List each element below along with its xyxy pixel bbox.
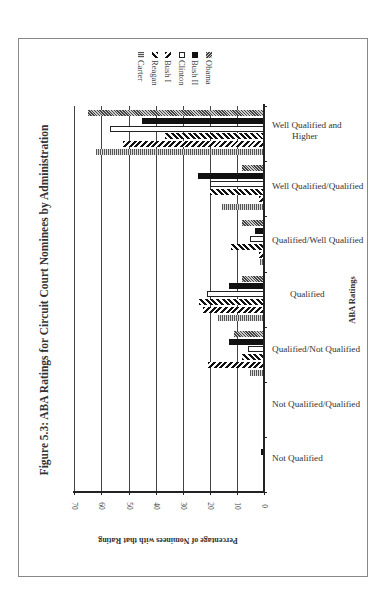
category-label: Not Qualified/Qualified [272,399,360,410]
legend-swatch-icon [165,52,171,58]
bar-bush-ii [229,283,264,289]
legend-item: Bush II [190,52,200,85]
category-label: Well Qualified andHigher [272,120,342,142]
plot-area [74,106,264,492]
legend-item: Reagan [150,52,160,86]
bar-reagan [203,307,264,313]
bar-clinton [248,346,264,352]
gridline [129,106,130,492]
category-label-line: Qualified [290,289,325,300]
value-tick-label: 50 [124,502,133,510]
category-label: Qualified/Well Qualified [272,235,363,246]
value-axis-label: Percentage of Nominees with that Rating [98,536,238,545]
legend-swatch-icon [206,52,212,58]
value-tick-label: 20 [205,502,214,510]
value-tick [129,491,130,495]
category-label-line: Qualified/Not Qualified [272,344,360,355]
gridline [156,106,157,492]
gridline [101,106,102,492]
legend-label: Carter [136,60,146,81]
gridline [183,106,184,492]
value-tick-label: 0 [260,504,269,508]
value-tick-label: 30 [178,502,187,510]
bar-obama [88,110,264,116]
bar-obama [242,220,264,226]
bar-clinton [207,291,264,297]
category-label-line: Not Qualified/Qualified [272,399,360,410]
category-axis-line [263,104,265,493]
legend-label: Reagan [150,60,160,86]
legend-item: Bush I [163,52,173,82]
category-label-line: Qualified/Well Qualified [272,235,363,246]
category-label-line: Higher [272,131,342,142]
category-tick [264,382,267,383]
bar-bush-i [199,299,264,305]
value-tick-label: 40 [151,502,160,510]
bar-carter [218,315,264,321]
bar-obama [242,276,264,282]
bar-bush-i [242,354,264,360]
bar-obama [234,331,264,337]
bar-bush-ii [198,173,264,179]
bar-clinton [250,236,264,242]
bar-reagan [123,141,264,147]
bar-clinton [110,126,264,132]
category-tick [264,106,267,107]
category-tick [264,437,267,438]
category-label: Well Qualified/Qualified [272,181,363,192]
legend-swatch-icon [192,52,198,58]
bar-carter [250,370,264,376]
category-label-line: Well Qualified and [272,120,342,131]
legend-swatch-icon [138,52,144,58]
value-tick [101,491,102,495]
legend-label: Bush II [190,60,200,85]
bar-carter [222,204,264,210]
bar-reagan [208,362,264,368]
legend-label: Obama [204,60,214,85]
category-tick [264,216,267,217]
category-label: Qualified [290,289,325,300]
legend-swatch-icon [179,52,185,58]
legend-item: Clinton [177,52,187,86]
chart-title: Figure 5.3: ABA Ratings for Circuit Cour… [38,125,50,476]
category-tick [264,272,267,273]
legend-label: Clinton [177,60,187,86]
value-tick [210,491,211,495]
value-tick [74,491,75,495]
value-tick-label: 60 [97,502,106,510]
category-axis-label: ABA Ratings [347,276,357,323]
legend-item: Carter [136,52,146,81]
legend-swatch-icon [152,52,158,58]
value-tick [183,491,184,495]
category-label: Qualified/Not Qualified [272,344,360,355]
bar-bush-ii [142,118,264,124]
bar-obama [242,165,264,171]
legend-label: Bush I [163,60,173,82]
value-tick-label: 70 [70,502,79,510]
category-label-line: Well Qualified/Qualified [272,181,363,192]
value-tick [156,491,157,495]
category-tick [264,161,267,162]
legend-item: Obama [204,52,214,85]
category-tick [264,492,267,493]
category-label: Not Qualified [272,453,323,464]
bar-bush-i [231,244,264,250]
value-tick-label: 10 [232,502,241,510]
bar-clinton [210,181,264,187]
gridline [74,106,75,492]
value-tick [237,491,238,495]
bar-bush-ii [229,339,264,345]
category-tick [264,327,267,328]
bar-bush-i [210,189,264,195]
bar-carter [96,149,264,155]
bar-bush-i [165,133,264,139]
category-label-line: Not Qualified [272,453,323,464]
